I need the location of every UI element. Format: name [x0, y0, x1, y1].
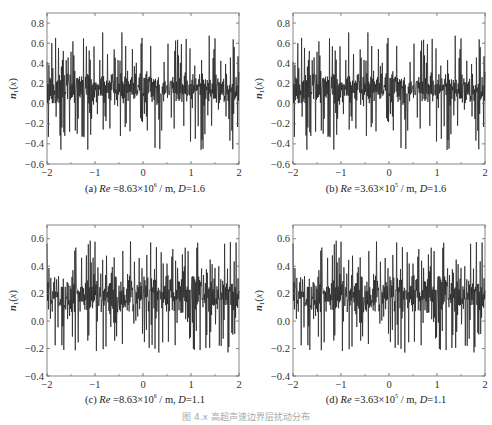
- caption-re: Re: [341, 394, 352, 405]
- x-tick-label: 1: [434, 167, 439, 178]
- x-tick-label: 2: [482, 379, 487, 390]
- x-axis-label: x / m: [131, 391, 153, 392]
- y-tick-label: −0.2: [25, 343, 44, 354]
- caption-re: Re: [99, 394, 110, 405]
- x-tick-label: −1: [89, 167, 100, 178]
- y-tick-label: 0.6: [277, 38, 290, 49]
- y-tick-label: 0.8: [277, 18, 290, 29]
- y-tick-label: 0.0: [31, 316, 44, 327]
- y-tick-label: 0.2: [277, 78, 290, 89]
- y-tick-label: 0.4: [31, 261, 45, 272]
- y-tick-label: 0.8: [31, 18, 44, 29]
- y-tick-label: 0.4: [277, 58, 291, 69]
- y-tick-label: 0.0: [31, 98, 44, 109]
- plot-b: −0.6−0.4−0.20.00.20.40.60.8−2−1012x / mn…: [246, 0, 492, 180]
- caption-re: Re: [99, 183, 110, 194]
- x-tick-label: 1: [188, 379, 193, 390]
- x-tick-label: −2: [41, 167, 52, 178]
- x-tick-label: 0: [140, 379, 145, 390]
- x-axis-label: x / m: [377, 391, 399, 392]
- signal-line: [293, 241, 485, 353]
- x-tick-label: 2: [236, 379, 241, 390]
- caption-d: D: [178, 394, 186, 405]
- y-tick-label: 0.6: [277, 233, 290, 244]
- caption-label: (a): [85, 183, 99, 194]
- caption-value: =3.63×10: [352, 394, 395, 405]
- y-tick-label: −0.4: [271, 138, 291, 149]
- caption-d-value: =1.6: [186, 183, 205, 194]
- x-axis-label: x / m: [377, 179, 399, 180]
- x-tick-label: 0: [140, 167, 145, 178]
- plot-a: −0.6−0.4−0.20.00.20.40.60.8−2−1012x / mn…: [0, 0, 246, 180]
- x-tick-label: 1: [188, 167, 193, 178]
- caption-d-value: =1.6: [427, 183, 446, 194]
- y-tick-label: 0.6: [31, 38, 44, 49]
- y-tick-label: −0.2: [271, 343, 290, 354]
- x-tick-label: −2: [41, 379, 52, 390]
- plot-d: −0.4−0.20.00.20.40.6−2−1012x / mn1(x): [246, 212, 492, 392]
- x-tick-label: −1: [335, 379, 346, 390]
- y-axis-label: n1(x): [253, 289, 266, 311]
- caption-label: (b): [326, 183, 341, 194]
- caption-label: (c): [85, 394, 99, 405]
- caption-unit: / m,: [398, 183, 420, 194]
- chart-panel-b: −0.6−0.4−0.20.00.20.40.60.8−2−1012x / mn…: [246, 0, 492, 180]
- x-tick-label: −1: [335, 167, 346, 178]
- figure-caption: 图 4.x 高超声速边界层扰动分布: [0, 410, 492, 423]
- chart-panel-d: −0.4−0.20.00.20.40.6−2−1012x / mn1(x): [246, 212, 492, 392]
- caption-unit: / m,: [157, 183, 179, 194]
- caption-unit: / m,: [398, 394, 420, 405]
- caption-label: (d): [326, 394, 341, 405]
- x-tick-label: −2: [287, 379, 298, 390]
- x-tick-label: 0: [386, 167, 391, 178]
- x-tick-label: −2: [287, 167, 298, 178]
- y-axis-label: n1(x): [7, 289, 20, 311]
- signal-line: [293, 32, 485, 149]
- y-axis-label: n1(x): [253, 77, 266, 99]
- y-tick-label: 0.0: [277, 98, 290, 109]
- caption-value: =3.63×10: [352, 183, 395, 194]
- y-tick-label: 0.4: [31, 58, 45, 69]
- y-tick-label: 0.6: [31, 233, 44, 244]
- y-tick-label: −0.2: [25, 118, 44, 129]
- y-tick-label: 0.2: [277, 288, 290, 299]
- x-tick-label: 2: [482, 167, 487, 178]
- caption-d-value: =1.1: [427, 394, 446, 405]
- panel-b-caption: (b) Re =3.63×105 / m, D=1.6: [246, 182, 492, 194]
- chart-panel-a: −0.6−0.4−0.20.00.20.40.60.8−2−1012x / mn…: [0, 0, 246, 180]
- x-tick-label: 2: [236, 167, 241, 178]
- caption-d-value: =1.1: [186, 394, 205, 405]
- signal-line: [47, 32, 239, 149]
- y-tick-label: 0.0: [277, 316, 290, 327]
- y-axis-label: n1(x): [7, 77, 20, 99]
- y-tick-label: 0.2: [31, 288, 44, 299]
- caption-value: =8.63×10: [110, 183, 153, 194]
- chart-panel-c: −0.4−0.20.00.20.40.6−2−1012x / mn1(x): [0, 212, 246, 392]
- y-tick-label: 0.4: [277, 261, 291, 272]
- x-tick-label: −1: [89, 379, 100, 390]
- y-tick-label: −0.4: [25, 138, 45, 149]
- y-tick-label: −0.2: [271, 118, 290, 129]
- x-tick-label: 1: [434, 379, 439, 390]
- caption-re: Re: [341, 183, 352, 194]
- plot-c: −0.4−0.20.00.20.40.6−2−1012x / mn1(x): [0, 212, 246, 392]
- x-tick-label: 0: [386, 379, 391, 390]
- caption-d: D: [178, 183, 186, 194]
- panel-d-caption: (d) Re =3.63×105 / m, D=1.1: [246, 393, 492, 405]
- caption-unit: / m,: [157, 394, 179, 405]
- y-tick-label: 0.2: [31, 78, 44, 89]
- signal-line: [47, 241, 239, 353]
- x-axis-label: x / m: [131, 179, 153, 180]
- caption-value: =8.63×10: [110, 394, 153, 405]
